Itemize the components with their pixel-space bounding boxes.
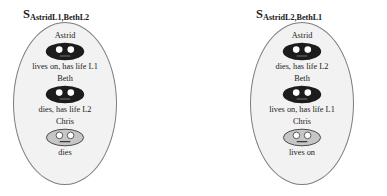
list-item: Astrid dies, has life L2: [250, 30, 354, 72]
situation-subscript: AstridL1,BethL2: [30, 13, 89, 22]
entry-name: Beth: [57, 73, 73, 84]
light-face-icon: [45, 128, 85, 147]
situation-label-right: SAstridL2,BethL1: [256, 5, 322, 22]
entry-status: dies, has life L2: [39, 104, 92, 115]
light-face-icon: [282, 128, 322, 147]
entry-status: lives on: [289, 147, 315, 158]
situation-panel-right: SAstridL2,BethL1 Astrid dies, has life L…: [194, 0, 387, 196]
entry-name: Astrid: [292, 30, 313, 41]
entry-name: Chris: [56, 116, 74, 127]
list-item: Beth dies, has life L2: [13, 73, 117, 115]
entry-name: Astrid: [55, 30, 76, 41]
list-item: Beth lives on, has life L1: [250, 73, 354, 115]
dark-face-icon: [45, 42, 85, 61]
dark-face-icon: [45, 85, 85, 104]
entry-name: Chris: [293, 116, 311, 127]
situation-subscript: AstridL2,BethL1: [263, 13, 322, 22]
dark-face-icon: [282, 42, 322, 61]
situation-symbol: S: [256, 7, 263, 21]
entry-name: Beth: [294, 73, 310, 84]
entry-status: dies: [58, 147, 71, 158]
entry-status: lives on, has life L1: [269, 104, 335, 115]
list-item: Chris dies: [13, 116, 117, 158]
situation-panel-left: SAstridL1,BethL2 Astrid lives on, has li…: [0, 0, 193, 196]
diagram-canvas: SAstridL1,BethL2 Astrid lives on, has li…: [0, 0, 387, 196]
situation-symbol: S: [23, 7, 30, 21]
list-item: Astrid lives on, has life L1: [13, 30, 117, 72]
entry-list-left: Astrid lives on, has life L1 Beth: [13, 22, 117, 185]
entry-status: dies, has life L2: [276, 61, 329, 72]
entry-status: lives on, has life L1: [32, 61, 98, 72]
entry-list-right: Astrid dies, has life L2 Beth: [250, 22, 354, 185]
list-item: Chris lives on: [250, 116, 354, 158]
situation-label-left: SAstridL1,BethL2: [23, 5, 89, 22]
dark-face-icon: [282, 85, 322, 104]
